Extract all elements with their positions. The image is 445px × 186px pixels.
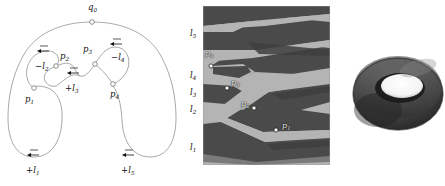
marker-p4-fractal <box>209 64 213 68</box>
fractal-image-svg <box>203 6 330 165</box>
marker-q0 <box>90 20 95 25</box>
figure-row: q0 p1 p2 p3 p4 +l1 −l2 +l3 −l4 +l5 <box>0 0 445 186</box>
label-p2: p2 <box>60 52 69 61</box>
fractal-band-label-l3: l3 <box>190 88 196 97</box>
torus-panel <box>352 38 445 150</box>
fractal-band-label-l4: l4 <box>190 71 196 80</box>
fractal-point-label-p2: p2 <box>241 100 250 108</box>
fractal-band-label-l5: l5 <box>190 29 196 38</box>
marker-p2-fractal <box>252 106 256 110</box>
label-minus-l2: −l2 <box>35 62 49 71</box>
label-plus-l5: +l5 <box>121 166 135 175</box>
marker-p2 <box>54 64 59 69</box>
marker-p1-fractal <box>274 128 278 132</box>
fractal-point-label-p3: p3 <box>231 79 240 87</box>
curve-diagram-panel: q0 p1 p2 p3 p4 +l1 −l2 +l3 −l4 +l5 <box>0 0 196 186</box>
torus-svg <box>352 38 445 150</box>
fractal-image-panel <box>203 6 330 165</box>
fractal-point-label-p4: p4 <box>205 50 214 58</box>
curve-diagram-svg <box>0 0 196 186</box>
label-p4: p4 <box>110 90 119 99</box>
label-q0: q0 <box>88 3 97 12</box>
marker-p1 <box>32 86 37 91</box>
fractal-band-label-l1: l1 <box>190 143 196 152</box>
label-plus-l3: +l3 <box>65 84 79 93</box>
fractal-band-label-l2: l2 <box>190 105 196 114</box>
label-minus-l4: −l4 <box>111 53 125 62</box>
label-p3: p3 <box>83 45 92 54</box>
label-p1: p1 <box>25 95 34 104</box>
marker-p3-fractal <box>225 86 229 90</box>
fractal-point-label-p1: p1 <box>282 122 291 130</box>
torus-lower-shade <box>354 93 402 127</box>
marker-p4 <box>111 82 116 87</box>
marker-p3 <box>93 62 98 67</box>
label-plus-l1: +l1 <box>26 166 40 175</box>
